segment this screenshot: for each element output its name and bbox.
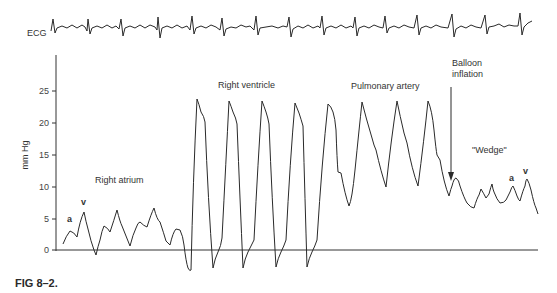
tick-0: 0 [44, 245, 49, 255]
tick-10: 10 [39, 182, 49, 192]
y-ticks [52, 91, 56, 250]
tick-5: 5 [44, 214, 49, 224]
ecg-label: ECG [27, 28, 47, 38]
y-axis-label: mm Hg [20, 141, 30, 170]
ecg-trace [51, 13, 532, 38]
label-pulmonary-artery: Pulmonary artery [351, 81, 420, 91]
marker-v-atrium: v [81, 197, 86, 207]
figure-canvas: ECG 0 5 10 15 20 25 mm Hg Right atrium R… [0, 0, 557, 293]
label-balloon-line2: inflation [452, 69, 483, 79]
figure-caption: FIG 8–2. [15, 277, 58, 289]
label-right-atrium: Right atrium [95, 175, 144, 185]
label-wedge: "Wedge" [472, 145, 507, 155]
tick-15: 15 [39, 150, 49, 160]
label-right-ventricle: Right ventricle [218, 80, 275, 90]
marker-v-wedge: v [523, 166, 528, 176]
label-balloon-line1: Balloon [452, 58, 482, 68]
marker-a-atrium: a [67, 214, 73, 224]
tick-25: 25 [39, 86, 49, 96]
marker-a-wedge: a [509, 173, 515, 183]
balloon-arrow-head [448, 172, 454, 181]
tick-20: 20 [39, 118, 49, 128]
